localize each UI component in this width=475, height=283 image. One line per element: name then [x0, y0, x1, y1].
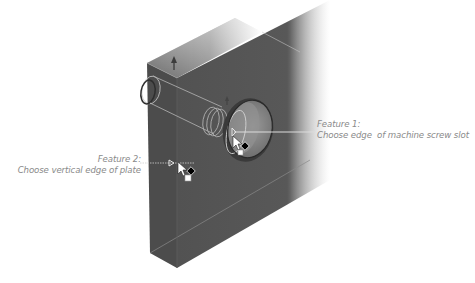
- plate-side-face: [147, 63, 177, 268]
- face-select-square-icon: [185, 175, 191, 181]
- feature-2-title: Feature 2:: [18, 154, 141, 165]
- feature-1-title: Feature 1:: [317, 119, 469, 130]
- assembly-diagram: Feature 1: Choose edge of machine screw …: [0, 0, 475, 283]
- feature-1-callout: Feature 1: Choose edge of machine screw …: [317, 119, 469, 140]
- feature-1-instruction: Choose edge of machine screw slot: [317, 130, 469, 141]
- plate-3d-view: [0, 0, 475, 283]
- feature-2-instruction: Choose vertical edge of plate: [18, 165, 141, 176]
- face-select-square-icon: [238, 150, 243, 155]
- feature-2-callout: Feature 2: Choose vertical edge of plate: [18, 154, 141, 175]
